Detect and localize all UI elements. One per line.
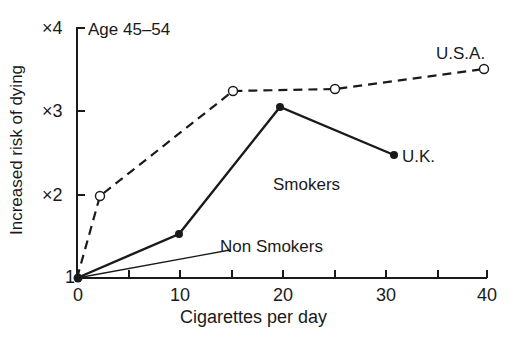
usa-point (229, 87, 238, 96)
non-smokers-label: Non Smokers (220, 238, 323, 255)
usa-label: U.S.A. (436, 45, 485, 62)
y-tick-label: ×2 (42, 185, 63, 206)
x-tick-label: 10 (170, 285, 190, 306)
y-tick-label: ×4 (42, 18, 63, 39)
x-tick-label: 40 (477, 285, 497, 306)
y-tick-label: ×3 (42, 101, 63, 122)
x-tick-label: 20 (273, 285, 293, 306)
uk-point (276, 103, 284, 111)
x-tick-label: 30 (376, 285, 396, 306)
uk-point (390, 151, 398, 159)
chart-title: Age 45–54 (88, 21, 170, 38)
usa-point (480, 65, 489, 74)
y-axis-title: Increased risk of dying (7, 65, 27, 235)
x-axis-title: Cigarettes per day (180, 308, 327, 326)
usa-point (331, 85, 340, 94)
usa-point (96, 192, 105, 201)
smokers-label: Smokers (273, 176, 340, 193)
uk-label: U.K. (402, 148, 435, 165)
x-tick-label: 0 (73, 285, 83, 306)
uk-point (175, 230, 183, 238)
series-non-smokers (77, 250, 230, 278)
